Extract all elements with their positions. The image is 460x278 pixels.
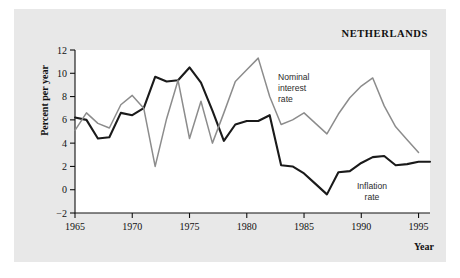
inflation-rate-label: rate <box>365 192 380 202</box>
x-tick-label: 1995 <box>409 221 429 232</box>
y-tick-label: 2 <box>62 161 67 172</box>
nominal-interest-rate-label: Nominal <box>278 72 310 82</box>
x-tick-label: 1990 <box>351 221 371 232</box>
x-tick-label: 1975 <box>180 221 200 232</box>
y-tick-label: −2 <box>56 208 67 219</box>
inflation-rate-label: Inflation <box>357 181 387 191</box>
y-tick-label: 6 <box>62 114 67 125</box>
x-tick-label: 1965 <box>65 221 85 232</box>
nominal-interest-rate-label: interest <box>278 83 307 93</box>
y-tick-label: 10 <box>57 68 67 79</box>
x-tick-label: 1980 <box>237 221 257 232</box>
y-tick-label: 4 <box>62 138 67 149</box>
figure-panel: NETHERLANDS Percent per year Year −20246… <box>14 9 446 262</box>
nominal-interest-rate-label: rate <box>278 94 293 104</box>
chart-plot: −20246810121965197019751980198519901995N… <box>14 9 446 262</box>
y-tick-label: 0 <box>62 184 67 195</box>
y-tick-label: 12 <box>57 45 67 56</box>
x-tick-label: 1970 <box>122 221 142 232</box>
x-tick-label: 1985 <box>294 221 314 232</box>
y-tick-label: 8 <box>62 91 67 102</box>
